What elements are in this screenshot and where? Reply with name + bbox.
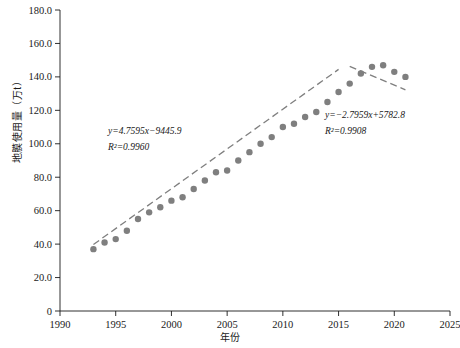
data-point: [191, 186, 197, 192]
falling-trendline: [350, 66, 406, 89]
data-point: [124, 228, 130, 234]
y-tick-label: 120.0: [28, 105, 52, 116]
x-axis-title: 年份: [0, 329, 460, 344]
data-point: [101, 239, 107, 245]
data-point: [280, 124, 286, 130]
data-point: [168, 197, 174, 203]
data-point: [402, 74, 408, 80]
data-point: [335, 89, 341, 95]
data-point: [291, 121, 297, 127]
y-tick-label: 180.0: [28, 5, 52, 16]
data-point: [235, 157, 241, 163]
data-point: [347, 80, 353, 86]
x-axis-ticks: 19901995200020052010201520202025: [50, 311, 460, 330]
data-point: [380, 62, 386, 68]
y-tick-label: 20.0: [34, 272, 52, 283]
data-point: [257, 141, 263, 147]
y-axis-ticks: 020.040.060.080.0100.0120.0140.0160.0180…: [28, 5, 60, 317]
y-tick-label: 80.0: [34, 172, 52, 183]
data-point: [324, 99, 330, 105]
data-point: [269, 134, 275, 140]
data-point: [179, 194, 185, 200]
scatter-plot: 020.040.060.080.0100.0120.0140.0160.0180…: [0, 0, 460, 348]
data-point: [369, 64, 375, 70]
data-point: [157, 204, 163, 210]
y-tick-label: 140.0: [28, 71, 52, 82]
data-point: [90, 246, 96, 252]
data-point: [224, 167, 230, 173]
data-point: [246, 149, 252, 155]
data-point: [135, 216, 141, 222]
data-point: [302, 114, 308, 120]
chart-figure: 020.040.060.080.0100.0120.0140.0160.0180…: [0, 0, 460, 348]
data-point: [202, 177, 208, 183]
y-tick-label: 100.0: [28, 138, 52, 149]
rising-equation-text: y=4.7595x−9445.9: [107, 126, 182, 136]
rising-trendline: [93, 69, 338, 244]
data-point: [358, 70, 364, 76]
y-tick-label: 60.0: [34, 205, 52, 216]
data-point-markers: [90, 62, 408, 252]
y-tick-label: 160.0: [28, 38, 52, 49]
falling-rsquared-text: R²=0.9908: [324, 126, 366, 136]
y-tick-label: 0: [47, 306, 52, 317]
data-point: [313, 109, 319, 115]
rising-rsquared-text: R²=0.9960: [107, 142, 149, 152]
data-point: [391, 69, 397, 75]
y-axis-title: 地膜使用量（万t）: [9, 60, 24, 180]
data-point: [113, 236, 119, 242]
data-point: [213, 169, 219, 175]
data-point: [146, 209, 152, 215]
y-tick-label: 40.0: [34, 239, 52, 250]
falling-equation-text: y=−2.7959x+5782.8: [324, 110, 405, 120]
